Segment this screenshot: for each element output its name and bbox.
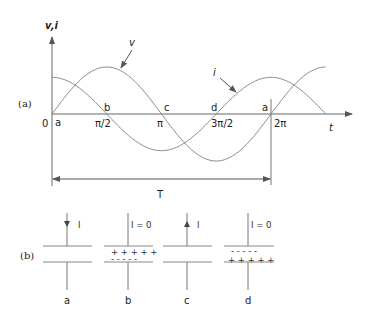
x-axis-label: t xyxy=(329,122,334,133)
current-label: I = 0 xyxy=(251,220,271,230)
current-curve-label: i xyxy=(213,67,216,78)
capacitor-a: I a xyxy=(43,213,92,306)
bottom-charge: + + + + + xyxy=(228,255,274,265)
waveform-plot: v,i t (a) 0 a b c d a π/2 π 3π/2 2π v i … xyxy=(18,20,352,200)
voltage-curve-label: v xyxy=(129,37,136,48)
point-label-b: b xyxy=(104,102,110,113)
state-label: d xyxy=(245,295,251,306)
part-a-label: (a) xyxy=(18,98,32,109)
tick-label-2pi: 2π xyxy=(274,118,286,129)
current-label: I = 0 xyxy=(131,220,151,230)
current-pointer-arrow xyxy=(220,78,236,92)
point-label-c: c xyxy=(164,102,170,113)
tick-label-pi-over-2: π/2 xyxy=(95,118,111,129)
origin-label: 0 xyxy=(42,118,48,129)
state-label: b xyxy=(125,295,131,306)
state-label: c xyxy=(184,295,190,306)
figure-canvas: v,i t (a) 0 a b c d a π/2 π 3π/2 2π v i … xyxy=(0,0,369,323)
y-axis-label: v,i xyxy=(45,20,59,31)
tick-label-3pi-over-2: 3π/2 xyxy=(211,118,233,129)
capacitor-c: I c xyxy=(163,213,212,306)
arrow-up-icon xyxy=(184,221,190,227)
point-label-a-start: a xyxy=(55,117,61,128)
voltage-pointer-arrow xyxy=(121,50,132,68)
capacitor-states: (b) I a I = 0 + + + + + - - - - - b I xyxy=(20,213,274,306)
current-label: I xyxy=(197,220,200,230)
current-label: I xyxy=(78,220,81,230)
tick-label-pi: π xyxy=(157,118,163,129)
period-label: T xyxy=(156,189,164,200)
capacitor-d: I = 0 - - - - - + + + + + d xyxy=(224,213,274,306)
capacitor-b: I = 0 + + + + + - - - - - b xyxy=(104,213,157,306)
point-label-a-end: a xyxy=(262,102,268,113)
state-label: a xyxy=(64,295,70,306)
arrow-down-icon xyxy=(64,221,70,227)
part-b-label: (b) xyxy=(20,250,34,261)
point-label-d: d xyxy=(211,102,217,113)
